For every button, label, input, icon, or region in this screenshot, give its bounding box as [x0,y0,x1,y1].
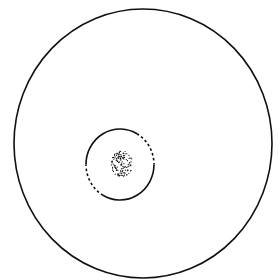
dot [121,163,122,164]
dot [121,168,122,169]
dot [114,156,115,157]
dot [129,162,130,163]
dot [124,151,125,152]
dot [120,173,121,174]
dot [131,158,132,159]
dot [112,167,113,168]
dot [117,174,118,175]
dot [120,171,121,172]
dot [130,165,131,166]
dot [123,176,124,177]
inner-circle-dashed-arc [137,134,154,165]
dot [113,171,114,172]
dot [119,156,120,157]
dot [118,174,119,175]
outer-circle [14,9,272,278]
dot [126,159,127,160]
dot [124,173,125,174]
dot [119,154,120,155]
dot [123,168,124,169]
inner-circle-solid-arc [86,129,137,164]
dot [118,157,119,158]
dot [116,159,117,160]
dot [125,170,126,171]
dot [117,173,118,174]
dot [128,164,129,165]
inner-circle-dashed-arc [86,165,103,196]
dot [120,154,121,155]
dot [117,157,118,158]
dot [124,153,125,154]
dot [117,170,118,171]
dot [116,167,117,168]
dot [121,173,122,174]
dot [123,163,124,164]
dot [120,151,121,152]
dot [128,155,129,156]
dot [126,174,127,175]
dot [122,166,123,167]
dot [119,152,120,153]
dot [116,169,117,170]
dot [127,166,128,167]
dot [121,175,122,176]
dot [117,161,118,162]
diagram-canvas [0,0,280,280]
dot [113,159,114,160]
dot [118,156,119,157]
dot [122,157,123,158]
dot [112,157,113,158]
dot [130,170,131,171]
dot [126,153,127,154]
dot [111,164,112,165]
dot [118,162,119,163]
dot [115,174,116,175]
dot [120,158,121,159]
dot [122,161,123,162]
dot [115,165,116,166]
dot [117,166,118,167]
dot [123,159,124,160]
dot [112,170,113,171]
dot [124,175,125,176]
dot [123,155,124,156]
dot [116,153,117,154]
dot [114,165,115,166]
dot [111,161,112,162]
dot [129,163,130,164]
inner-circle-solid-arc [103,165,154,201]
dot [130,161,131,162]
dot [116,155,117,156]
dot [123,157,124,158]
dot [122,170,123,171]
dot [123,172,124,173]
dot [120,159,121,160]
dot-cluster [111,151,133,177]
dot [129,157,130,158]
dot [128,173,129,174]
dot [127,160,128,161]
dot [126,167,127,168]
dot [127,170,128,171]
dot [119,175,120,176]
dot [113,163,114,164]
dot [114,155,115,156]
dot [120,170,121,171]
dot [116,158,117,159]
dot [121,156,122,157]
dot [112,168,113,169]
dot [123,153,124,154]
dot [122,171,123,172]
dot [121,164,122,165]
dot [114,157,115,158]
